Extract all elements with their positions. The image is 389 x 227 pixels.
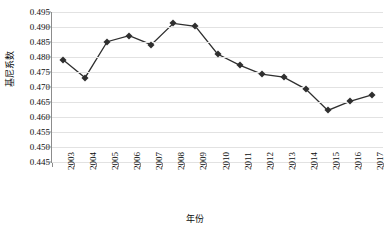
x-axis-tick (74, 163, 75, 167)
x-axis-tick (184, 163, 185, 167)
y-axis-tick (46, 27, 51, 28)
x-axis-tick-label: 2012 (266, 152, 275, 170)
x-axis-tick-label: 2006 (133, 152, 142, 170)
x-axis-tick-label: 2004 (89, 152, 98, 170)
x-axis-tick-label: 2003 (67, 152, 76, 170)
x-axis-tick (339, 163, 340, 167)
y-axis-tick (46, 72, 51, 73)
x-axis-tick-label: 2008 (177, 152, 186, 170)
x-axis-tick (383, 163, 384, 167)
x-axis-tick (229, 163, 230, 167)
y-axis-tick (46, 147, 51, 148)
x-axis-tick-label: 2009 (199, 152, 208, 170)
x-axis-tick-label: 2017 (376, 152, 385, 170)
y-axis-tick (46, 102, 51, 103)
y-axis-tick (46, 87, 51, 88)
y-axis-tick (46, 132, 51, 133)
x-axis-tick-label: 2013 (288, 152, 297, 170)
x-axis-tick (52, 163, 53, 167)
x-axis-tick (251, 163, 252, 167)
x-axis-tick (96, 163, 97, 167)
x-axis-tick-label: 2007 (155, 152, 164, 170)
x-axis-tick-label: 2014 (310, 152, 319, 170)
y-axis-tick (46, 42, 51, 43)
x-axis-tick (206, 163, 207, 167)
x-axis-tick (317, 163, 318, 167)
x-axis-title: 年份 (0, 212, 389, 225)
x-axis-tick-label: 2010 (222, 152, 231, 170)
y-axis-tick (46, 12, 51, 13)
y-axis-tick (46, 57, 51, 58)
y-axis-tick (46, 117, 51, 118)
x-axis-tick-label: 2005 (111, 152, 120, 170)
x-axis-tick-label: 2016 (354, 152, 363, 170)
x-axis-tick (361, 163, 362, 167)
y-axis-tick (46, 162, 51, 163)
x-axis-tick (295, 163, 296, 167)
x-axis-tick (162, 163, 163, 167)
x-axis-tick-label: 2015 (332, 152, 341, 170)
gini-coefficient-line-chart: 基尼系数 0.4950.4900.4850.4800.4750.4700.465… (0, 0, 389, 227)
x-axis-tick-label: 2011 (244, 152, 253, 170)
x-axis-tick (118, 163, 119, 167)
x-axis-tick (273, 163, 274, 167)
x-axis-tick (140, 163, 141, 167)
x-axis-tick-labels: 2003200420052006200720082009201020112012… (0, 0, 389, 227)
